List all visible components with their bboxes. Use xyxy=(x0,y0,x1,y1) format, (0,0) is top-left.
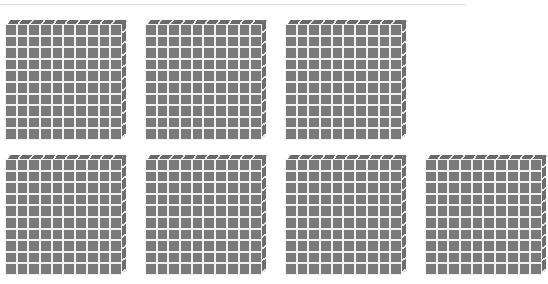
unit-cell xyxy=(204,264,214,274)
unit-cell xyxy=(321,48,331,58)
unit-cell xyxy=(380,25,390,35)
unit-cell xyxy=(146,83,156,93)
unit-cell xyxy=(76,253,86,263)
unit-cell xyxy=(111,206,121,216)
unit-cell xyxy=(18,129,28,139)
unit-cell xyxy=(473,241,483,251)
unit-cell xyxy=(100,129,110,139)
unit-cell xyxy=(368,160,378,170)
unit-cell xyxy=(380,129,390,139)
unit-cell xyxy=(88,195,98,205)
unit-cell xyxy=(88,218,98,228)
unit-cell xyxy=(204,195,214,205)
unit-cell xyxy=(309,118,319,128)
unit-cell xyxy=(53,241,63,251)
unit-cell xyxy=(64,183,74,193)
unit-cell xyxy=(88,60,98,70)
unit-cell xyxy=(321,60,331,70)
unit-cell xyxy=(53,183,63,193)
unit-cell xyxy=(368,83,378,93)
unit-cell xyxy=(29,71,39,81)
unit-cell xyxy=(18,95,28,105)
unit-cell xyxy=(18,218,28,228)
unit-cell xyxy=(41,48,51,58)
unit-cell xyxy=(391,264,401,274)
unit-cell xyxy=(240,48,250,58)
unit-cell xyxy=(204,95,214,105)
unit-cell xyxy=(391,106,401,116)
unit-cell xyxy=(368,129,378,139)
unit-cell xyxy=(496,195,506,205)
unit-cell xyxy=(204,129,214,139)
unit-cell xyxy=(344,83,354,93)
unit-cell xyxy=(426,206,436,216)
unit-cell xyxy=(484,241,494,251)
unit-cell xyxy=(100,183,110,193)
block-face-grid xyxy=(145,24,262,140)
unit-cell xyxy=(356,206,366,216)
unit-cell xyxy=(333,95,343,105)
unit-cell xyxy=(286,25,296,35)
unit-cell xyxy=(309,264,319,274)
unit-cell xyxy=(6,71,16,81)
unit-cell xyxy=(344,129,354,139)
unit-cell xyxy=(309,60,319,70)
unit-cell xyxy=(298,206,308,216)
unit-cell xyxy=(240,206,250,216)
unit-cell xyxy=(6,183,16,193)
unit-cell xyxy=(29,160,39,170)
unit-cell xyxy=(286,129,296,139)
unit-cell xyxy=(298,253,308,263)
unit-cell xyxy=(29,264,39,274)
unit-cell xyxy=(426,241,436,251)
unit-cell xyxy=(64,160,74,170)
unit-cell xyxy=(18,48,28,58)
unit-cell xyxy=(298,37,308,47)
unit-cell xyxy=(473,172,483,182)
unit-cell xyxy=(356,183,366,193)
block-side-edge xyxy=(262,154,266,273)
unit-cell xyxy=(76,60,86,70)
unit-cell xyxy=(6,60,16,70)
unit-cell xyxy=(76,160,86,170)
unit-cell xyxy=(100,206,110,216)
unit-cell xyxy=(251,25,261,35)
unit-cell xyxy=(88,230,98,240)
unit-cell xyxy=(380,241,390,251)
unit-cell xyxy=(426,230,436,240)
unit-cell xyxy=(204,241,214,251)
unit-cell xyxy=(181,172,191,182)
unit-cell xyxy=(309,241,319,251)
unit-cell xyxy=(41,264,51,274)
unit-cell xyxy=(64,195,74,205)
unit-cell xyxy=(344,160,354,170)
unit-cell xyxy=(298,241,308,251)
unit-cell xyxy=(449,230,459,240)
unit-cell xyxy=(461,183,471,193)
unit-cell xyxy=(76,83,86,93)
unit-cell xyxy=(216,71,226,81)
unit-cell xyxy=(461,172,471,182)
unit-cell xyxy=(88,71,98,81)
unit-cell xyxy=(298,160,308,170)
unit-cell xyxy=(380,95,390,105)
unit-cell xyxy=(181,195,191,205)
unit-cell xyxy=(100,118,110,128)
unit-cell xyxy=(146,206,156,216)
unit-cell xyxy=(228,129,238,139)
unit-cell xyxy=(41,106,51,116)
unit-cell xyxy=(146,160,156,170)
block-side-edge xyxy=(402,154,406,273)
unit-cell xyxy=(76,129,86,139)
unit-cell xyxy=(158,48,168,58)
unit-cell xyxy=(251,95,261,105)
unit-cell xyxy=(333,60,343,70)
unit-cell xyxy=(368,183,378,193)
unit-cell xyxy=(531,206,541,216)
unit-cell xyxy=(461,264,471,274)
unit-cell xyxy=(426,195,436,205)
unit-cell xyxy=(380,118,390,128)
unit-cell xyxy=(520,241,530,251)
unit-cell xyxy=(88,183,98,193)
unit-cell xyxy=(228,172,238,182)
